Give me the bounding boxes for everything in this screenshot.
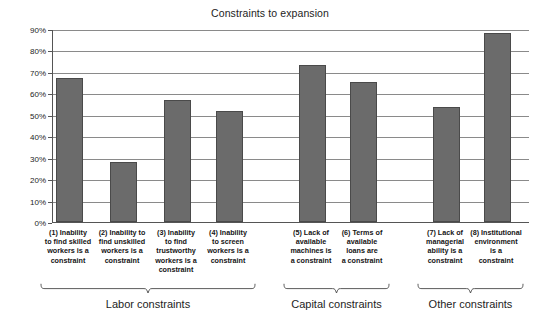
y-axis-tick-label: 20% bbox=[6, 176, 46, 185]
y-axis-tick-mark bbox=[48, 223, 52, 224]
category-label: (3) Inabilityto findtrustworthyworkers i… bbox=[149, 228, 203, 274]
category-label-line: ability is a bbox=[418, 246, 472, 255]
y-axis-tick-label: 70% bbox=[6, 68, 46, 77]
y-axis-tick-label: 30% bbox=[6, 154, 46, 163]
bar bbox=[484, 33, 511, 222]
category-label-line: find unskilled bbox=[95, 237, 149, 246]
category-label-line: constraint bbox=[418, 256, 472, 265]
category-label-line: (8) Institutional bbox=[469, 228, 523, 237]
category-label-line: a constraint bbox=[335, 256, 389, 265]
bar bbox=[164, 100, 191, 222]
category-label-line: is a bbox=[469, 246, 523, 255]
category-label-line: managerial bbox=[418, 237, 472, 246]
category-label-line: (6) Terms of bbox=[335, 228, 389, 237]
category-label: (2) Inability tofind unskilledworkers is… bbox=[95, 228, 149, 265]
category-label-line: loans are bbox=[335, 246, 389, 255]
group-brace bbox=[417, 283, 524, 295]
y-axis-tick-label: 10% bbox=[6, 197, 46, 206]
category-label-line: constraint bbox=[41, 256, 95, 265]
category-label-line: workers is a bbox=[95, 246, 149, 255]
y-axis-tick-label: 0% bbox=[6, 219, 46, 228]
category-label-line: (5) Lack of bbox=[284, 228, 338, 237]
category-label-line: constraint bbox=[149, 265, 203, 274]
category-label-line: (7) Lack of bbox=[418, 228, 472, 237]
y-axis-tick-label: 40% bbox=[6, 133, 46, 142]
category-label-line: to find skilled bbox=[41, 237, 95, 246]
category-label-line: machines is bbox=[284, 246, 338, 255]
category-label-line: constraint bbox=[201, 256, 255, 265]
gridline bbox=[53, 73, 529, 74]
category-label-line: to find bbox=[149, 237, 203, 246]
category-label: (7) Lack ofmanagerialability is aconstra… bbox=[418, 228, 472, 265]
category-label: (1) Inabilityto find skilledworkers is a… bbox=[41, 228, 95, 265]
category-label-line: trustworthy bbox=[149, 246, 203, 255]
gridline bbox=[53, 30, 529, 31]
gridline bbox=[53, 51, 529, 52]
gridline bbox=[53, 94, 529, 95]
category-label-line: environment bbox=[469, 237, 523, 246]
category-label-line: constraint bbox=[469, 256, 523, 265]
category-label-line: available bbox=[335, 237, 389, 246]
group-brace bbox=[283, 283, 390, 295]
bar bbox=[56, 78, 83, 222]
category-label-line: to screen bbox=[201, 237, 255, 246]
category-label: (8) Institutionalenvironmentis aconstrai… bbox=[469, 228, 523, 265]
bar bbox=[110, 162, 137, 222]
bar bbox=[299, 65, 326, 222]
category-label-line: (4) Inability bbox=[201, 228, 255, 237]
chart-title: Constraints to expansion bbox=[0, 7, 540, 19]
y-axis-tick-label: 60% bbox=[6, 90, 46, 99]
y-axis-tick-label: 90% bbox=[6, 26, 46, 35]
y-axis-tick-label: 50% bbox=[6, 111, 46, 120]
category-label-line: constraint bbox=[95, 256, 149, 265]
plot-area bbox=[52, 30, 529, 223]
category-label-line: a constraint bbox=[284, 256, 338, 265]
category-label-line: workers is a bbox=[41, 246, 95, 255]
category-label-line: (1) Inability bbox=[41, 228, 95, 237]
group-brace bbox=[40, 283, 256, 295]
group-label: Other constraints bbox=[417, 298, 524, 310]
group-label: Capital constraints bbox=[283, 298, 390, 310]
bar bbox=[216, 111, 243, 223]
category-label: (5) Lack ofavailablemachines isa constra… bbox=[284, 228, 338, 265]
category-label: (4) Inabilityto screenworkers is aconstr… bbox=[201, 228, 255, 265]
bar bbox=[433, 107, 460, 222]
bar-chart: Constraints to expansion 0%10%20%30%40%5… bbox=[0, 0, 540, 328]
category-label-line: workers is a bbox=[201, 246, 255, 255]
group-label: Labor constraints bbox=[40, 298, 256, 310]
category-label-line: available bbox=[284, 237, 338, 246]
y-axis-tick-label: 80% bbox=[6, 47, 46, 56]
category-label: (6) Terms ofavailableloans area constrai… bbox=[335, 228, 389, 265]
category-label-line: workers is a bbox=[149, 256, 203, 265]
bar bbox=[350, 82, 377, 222]
category-label-line: (2) Inability to bbox=[95, 228, 149, 237]
category-label-line: (3) Inability bbox=[149, 228, 203, 237]
